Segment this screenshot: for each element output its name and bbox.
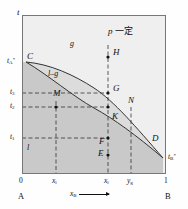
y-tick-tB-sup: * xyxy=(173,153,176,158)
region-label-gas: g xyxy=(70,40,74,48)
y-axis-label: t xyxy=(17,7,20,17)
x-tick-x1: xl xyxy=(104,177,109,185)
plot-svg xyxy=(22,15,166,174)
y-tick-t1-sub: 1 xyxy=(12,136,15,141)
y-tick-tA: tA* xyxy=(7,57,15,65)
y-tick-t3-sub: 3 xyxy=(12,91,15,96)
point-label-M: M xyxy=(53,89,61,98)
point-label-N: N xyxy=(128,96,134,105)
x-axis-label: xB xyxy=(70,190,77,198)
pressure-condition-label: p 一定 xyxy=(108,27,133,36)
point-dot-F xyxy=(106,136,109,139)
x-axis-label-sub: B xyxy=(73,193,76,198)
corner-label-B: B xyxy=(165,192,171,201)
x-tick-1: 1 xyxy=(164,177,168,185)
x-axis-label-group: xB xyxy=(70,190,109,198)
x-tick-xl: xl xyxy=(52,177,57,185)
constant-text: 一定 xyxy=(115,26,133,36)
x-axis-arrow-icon xyxy=(79,194,109,195)
x-tick-0-label: 0 xyxy=(19,176,23,185)
plot-area xyxy=(22,15,166,174)
point-label-C: C xyxy=(27,52,33,61)
point-dot-G xyxy=(106,91,109,94)
point-label-F: F xyxy=(99,137,105,146)
point-label-G: G xyxy=(113,84,120,93)
point-dot-E xyxy=(106,153,109,156)
x-tick-x1-sub: l xyxy=(107,180,108,185)
point-label-H: H xyxy=(113,48,120,57)
x-tick-xl-sub: l xyxy=(55,180,56,185)
point-dot-K xyxy=(106,105,109,108)
region-label-liquid: l xyxy=(27,144,29,152)
x-tick-1-label: 1 xyxy=(164,176,168,185)
x-tick-yg-sub: g xyxy=(130,180,133,185)
x-tick-yg: yg xyxy=(127,177,133,185)
point-label-K: K xyxy=(112,112,118,121)
point-label-E: E xyxy=(98,149,104,158)
y-tick-t2: t2 xyxy=(10,102,15,110)
point-label-D: D xyxy=(152,134,159,143)
region-label-two-phase: l–g xyxy=(48,70,58,78)
y-tick-tA-sup: * xyxy=(13,57,16,62)
x-tick-0: 0 xyxy=(19,177,23,185)
y-tick-t1: t1 xyxy=(10,133,15,141)
point-dot-M xyxy=(54,105,57,108)
point-dot-H xyxy=(106,55,109,58)
y-tick-tB-right: tB* xyxy=(168,153,176,161)
phase-diagram-figure: t xyxy=(0,0,188,209)
y-tick-t2-sub: 2 xyxy=(12,105,15,110)
corner-label-A: A xyxy=(18,192,24,201)
pressure-symbol: p xyxy=(108,26,113,36)
y-tick-t3: t3 xyxy=(10,88,15,96)
